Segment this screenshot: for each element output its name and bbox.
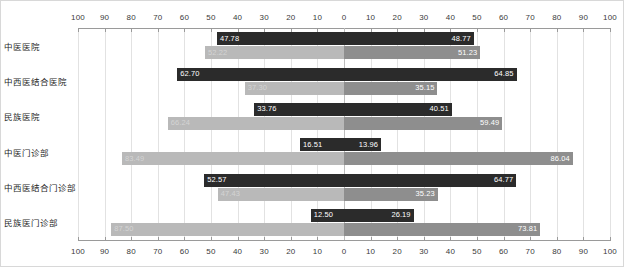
bar-value-label: 37.30: [248, 84, 267, 92]
axis-tick: [131, 237, 132, 241]
axis-tick-label: 20: [286, 13, 295, 22]
gridline: [291, 28, 292, 240]
bar-right-light: 59.49: [344, 117, 502, 130]
category-label: 民族医院: [4, 110, 76, 122]
bar-left-dark: 52.57: [204, 174, 344, 187]
axis-tick-label: 40: [446, 247, 455, 256]
axis-tick: [184, 28, 185, 32]
bar-left-light: 83.49: [122, 152, 344, 165]
axis-tick-label: 20: [393, 13, 402, 22]
bar-left-dark: 47.78: [217, 32, 344, 45]
bar-value-label: 16.51: [303, 141, 322, 149]
gridline: [504, 28, 505, 240]
bar-value-label: 64.77: [494, 176, 513, 184]
gridline: [477, 28, 478, 240]
axis-tick-label: 90: [579, 13, 588, 22]
bar-left-dark: 33.76: [254, 103, 344, 116]
gridline: [530, 28, 531, 240]
axis-tick: [583, 237, 584, 241]
axis-tick: [530, 237, 531, 241]
axis-tick-label: 40: [233, 13, 242, 22]
axis-tick-label: 70: [526, 13, 535, 22]
bar-left-dark: 62.70: [177, 68, 344, 81]
bar-left-light: 87.50: [111, 223, 344, 236]
bar-right-dark: 48.77: [344, 32, 474, 45]
axis-tick-label: 70: [153, 247, 162, 256]
axis-tick-label: 60: [499, 247, 508, 256]
axis-tick-label: 40: [446, 13, 455, 22]
axis-tick-label: 10: [366, 13, 375, 22]
bar-value-label: 86.04: [551, 155, 570, 163]
axis-tick: [530, 28, 531, 32]
axis-tick: [158, 237, 159, 241]
bar-value-label: 87.50: [114, 226, 133, 234]
axis-tick-label: 100: [603, 13, 617, 22]
bar-value-label: 35.15: [415, 84, 434, 92]
axis-tick: [583, 28, 584, 32]
category-label: 民族医门诊部: [4, 216, 76, 228]
bar-left-light: 52.22: [205, 46, 344, 59]
gridline: [158, 28, 159, 240]
axis-tick: [557, 28, 558, 32]
gridline: [78, 28, 79, 240]
axis-tick-label: 30: [419, 247, 428, 256]
gridline: [184, 28, 185, 240]
bar-left-dark: 16.51: [300, 138, 344, 151]
bar-value-label: 62.70: [180, 70, 199, 78]
bar-value-label: 47.78: [220, 35, 239, 43]
axis-tick: [504, 28, 505, 32]
axis-tick-label: 90: [100, 247, 109, 256]
bar-left-light: 66.24: [168, 117, 344, 130]
bar-value-label: 52.57: [207, 176, 226, 184]
bar-value-label: 48.77: [451, 35, 470, 43]
bar-right-dark: 64.85: [344, 68, 517, 81]
axis-tick: [105, 28, 106, 32]
gridline: [238, 28, 239, 240]
bar-right-light: 35.23: [344, 188, 438, 201]
axis-tick: [211, 237, 212, 241]
axis-tick-label: 60: [499, 13, 508, 22]
axis-tick: [504, 237, 505, 241]
bar-right-light: 73.81: [344, 223, 540, 236]
axis-tick: [477, 28, 478, 32]
gridline: [105, 28, 106, 240]
axis-tick-label: 80: [552, 13, 561, 22]
category-label: 中西医结合门诊部: [4, 181, 76, 193]
gridline: [264, 28, 265, 240]
category-label: 中医医院: [4, 40, 76, 52]
gridline: [557, 28, 558, 240]
axis-tick-label: 30: [260, 247, 269, 256]
axis-tick: [78, 237, 79, 241]
bar-value-label: 26.19: [391, 212, 410, 220]
gridline: [424, 28, 425, 240]
gridline: [450, 28, 451, 240]
axis-tick-label: 20: [286, 247, 295, 256]
axis-tick: [238, 237, 239, 241]
axis-tick: [397, 237, 398, 241]
bar-value-label: 59.49: [480, 120, 499, 128]
axis-tick-label: 80: [127, 247, 136, 256]
category-label: 中医门诊部: [4, 146, 76, 158]
bar-value-label: 47.43: [221, 190, 240, 198]
bar-value-label: 33.76: [257, 106, 276, 114]
bar-value-label: 66.24: [171, 120, 190, 128]
axis-tick: [291, 237, 292, 241]
axis-tick-label: 20: [393, 247, 402, 256]
bar-right-dark: 40.51: [344, 103, 452, 116]
axis-tick-label: 70: [153, 13, 162, 22]
bar-value-label: 35.23: [415, 190, 434, 198]
axis-tick-label: 50: [206, 247, 215, 256]
axis-tick-label: 100: [71, 247, 85, 256]
axis-tick: [610, 28, 611, 32]
bar-value-label: 40.51: [429, 106, 448, 114]
bar-value-label: 12.50: [314, 212, 333, 220]
diverging-bar-chart: 1001009090808070706060505040403030202010…: [0, 0, 624, 267]
bar-left-light: 47.43: [218, 188, 344, 201]
axis-tick-label: 40: [233, 247, 242, 256]
axis-tick-label: 50: [472, 247, 481, 256]
axis-tick-label: 10: [366, 247, 375, 256]
bar-right-light: 35.15: [344, 82, 437, 95]
axis-tick: [211, 28, 212, 32]
axis-tick-label: 0: [342, 247, 347, 256]
axis-tick-label: 30: [260, 13, 269, 22]
